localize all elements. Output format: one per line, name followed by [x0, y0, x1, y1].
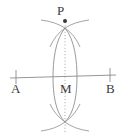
arc-from-left-center-upper [41, 20, 80, 47]
construction-arcs [41, 20, 89, 131]
lens-arc-right [65, 28, 77, 122]
label-point-a: A [11, 82, 20, 95]
line-AB [10, 75, 116, 78]
label-point-b: B [106, 82, 115, 95]
geometry-canvas [0, 0, 126, 136]
point-marker-P [63, 19, 67, 23]
arc-from-right-center-upper [50, 20, 89, 47]
label-point-p: P [57, 4, 64, 17]
geometry-figure: P A M B [0, 0, 126, 136]
label-point-m: M [60, 82, 72, 95]
lens-arc-left [53, 28, 65, 122]
